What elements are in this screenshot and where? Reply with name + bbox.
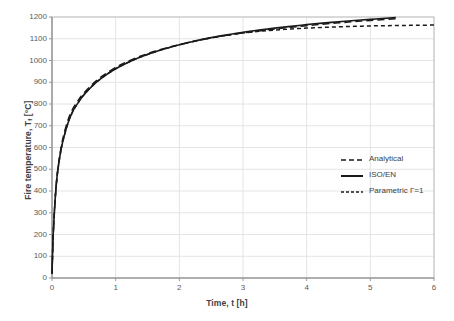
legend-label: ISO/EN (369, 170, 396, 179)
gridlines (52, 17, 434, 278)
y-axis-title: Fire temperature, Tf [°C] (23, 70, 33, 230)
y-tick-label: 200 (6, 230, 47, 239)
x-tick-label: 0 (37, 283, 67, 292)
legend (341, 160, 363, 192)
y-tick-label: 100 (6, 251, 47, 260)
x-tick-label: 4 (292, 283, 322, 292)
y-tick-label: 1100 (6, 34, 47, 43)
y-tick-label: 1000 (6, 56, 47, 65)
tick-marks (49, 17, 434, 281)
y-tick-label: 0 (6, 273, 47, 282)
series-line-iso-en (52, 18, 396, 274)
y-tick-label: 1200 (6, 12, 47, 21)
x-tick-label: 5 (355, 283, 385, 292)
x-tick-label: 1 (101, 283, 131, 292)
y-axis-title-unit: [°C] (23, 101, 33, 119)
legend-label: Analytical (369, 154, 403, 163)
x-tick-label: 3 (228, 283, 258, 292)
legend-label: Parametric Γ=1 (369, 186, 423, 195)
fire-temperature-chart: 0100200300400500600700800900100011001200… (0, 0, 454, 321)
x-tick-label: 2 (164, 283, 194, 292)
x-tick-label: 6 (419, 283, 449, 292)
y-axis-title-main: Fire temperature, T (23, 121, 33, 200)
x-axis-title: Time, t [h] (0, 298, 454, 308)
series-line-analytical (52, 19, 396, 274)
